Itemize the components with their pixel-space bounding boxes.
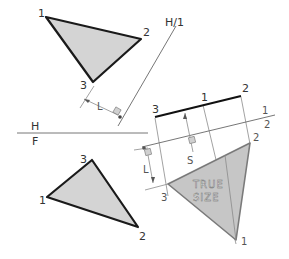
- edge-vertex-1-label: 1: [201, 91, 208, 104]
- diagram-svg: 1 2 3 H/1 L H F 1 2 3 3 1 2: [0, 0, 289, 259]
- fold-line-h1: H/1: [118, 16, 184, 126]
- arrow-head-icon: [183, 113, 187, 119]
- l-dim-label-top: L: [97, 101, 103, 112]
- top-view-triangle: [46, 17, 141, 82]
- top-view: 1 2 3: [38, 7, 150, 92]
- top-vertex-1-label: 1: [38, 7, 45, 20]
- l-dim-label-aux: L: [143, 164, 149, 175]
- point-marker-icon: [118, 115, 122, 119]
- ts-vertex-2-label: 2: [253, 132, 259, 143]
- true-size-view: TRUE SIZE 3 2 1: [161, 132, 259, 247]
- right-angle-marker-icon: [188, 136, 195, 143]
- ts-vertex-1-label: 1: [241, 236, 247, 247]
- h1-fold-label: H/1: [165, 16, 184, 29]
- fold-line-hf: H F: [17, 120, 148, 148]
- projector-2: [241, 97, 250, 144]
- right-angle-marker-icon: [144, 148, 151, 155]
- edge-vertex-3-label: 3: [152, 103, 159, 116]
- front-vertex-3-label: 3: [80, 153, 87, 166]
- top-view-l-dimension: L: [84, 99, 122, 119]
- true-size-label-line2: SIZE: [193, 192, 219, 203]
- point-marker-icon: [142, 146, 146, 150]
- ts-vertex-3-label: 3: [161, 192, 167, 203]
- edge-view-line: [155, 96, 241, 117]
- descriptive-geometry-figure: 1 2 3 H/1 L H F 1 2 3 3 1 2: [0, 0, 289, 259]
- aux12-fold-label-1: 1: [262, 105, 268, 116]
- aux-l-dimension: L: [134, 146, 168, 190]
- top-vertex-3-label: 3: [80, 79, 87, 92]
- right-angle-marker-icon: [113, 107, 121, 115]
- front-vertex-2-label: 2: [139, 230, 146, 243]
- front-view-triangle: [47, 160, 138, 227]
- hf-fold-label-f: F: [32, 135, 38, 148]
- front-vertex-1-label: 1: [39, 194, 46, 207]
- hf-fold-label-h: H: [31, 120, 39, 133]
- s-dim-label: S: [187, 155, 193, 166]
- aux12-fold-label-2: 2: [264, 119, 270, 130]
- true-size-label-line1: TRUE: [192, 179, 224, 190]
- s-dimension: S: [183, 113, 196, 166]
- front-view: 1 2 3: [39, 153, 146, 243]
- l-ext-line-aux-bottom: [145, 184, 168, 190]
- edge-vertex-2-label: 2: [242, 82, 249, 95]
- top-vertex-2-label: 2: [143, 26, 150, 39]
- arrow-head-icon: [151, 177, 155, 183]
